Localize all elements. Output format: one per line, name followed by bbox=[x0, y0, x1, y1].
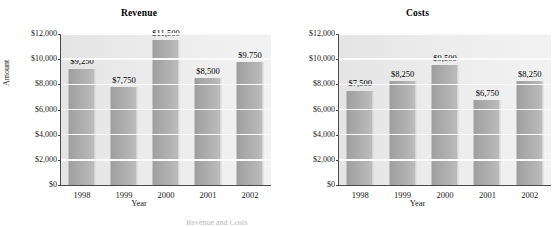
y-tick-mark bbox=[336, 185, 339, 186]
bar bbox=[347, 91, 374, 185]
gridline bbox=[339, 159, 551, 160]
bar-value-label: $8,500 bbox=[196, 67, 219, 76]
gridline bbox=[61, 134, 271, 135]
gridline bbox=[61, 33, 271, 34]
y-tick-mark bbox=[58, 34, 61, 35]
y-tick-mark bbox=[336, 59, 339, 60]
bar bbox=[111, 87, 138, 185]
y-tick-mark bbox=[58, 185, 61, 186]
y-tick-label: $12,000 bbox=[31, 30, 57, 38]
gridline bbox=[339, 84, 551, 85]
y-tick-mark bbox=[58, 84, 61, 85]
bar bbox=[153, 40, 180, 185]
y-tick-mark bbox=[336, 84, 339, 85]
gridline bbox=[339, 134, 551, 135]
bar bbox=[69, 69, 96, 185]
y-tick-label: $6,000 bbox=[313, 106, 335, 114]
y-tick-label: $12,000 bbox=[309, 30, 335, 38]
plot-area: $9,2501998$7,7501999$11,5002000$8,500200… bbox=[60, 34, 271, 186]
y-tick-mark bbox=[336, 160, 339, 161]
y-tick-label: $2,000 bbox=[313, 156, 335, 164]
bar bbox=[237, 62, 264, 185]
y-tick-label: $8,000 bbox=[313, 80, 335, 88]
y-tick-mark bbox=[336, 34, 339, 35]
chart-title: Revenue bbox=[0, 8, 278, 18]
y-tick-mark bbox=[58, 160, 61, 161]
x-axis-label: Year bbox=[278, 198, 557, 208]
gridline bbox=[61, 159, 271, 160]
bar bbox=[195, 78, 222, 185]
bar-value-label: $8,250 bbox=[518, 70, 541, 79]
gridline bbox=[339, 58, 551, 59]
x-axis-label: Year bbox=[0, 198, 278, 208]
gridline bbox=[339, 109, 551, 110]
y-tick-label: $4,000 bbox=[35, 131, 57, 139]
y-tick-label: $0 bbox=[49, 181, 57, 189]
figure-sheet: Revenue Amount $9,2501998$7,7501999$11,5… bbox=[0, 0, 557, 227]
y-tick-label: $0 bbox=[327, 181, 335, 189]
gridline bbox=[61, 109, 271, 110]
y-tick-label: $6,000 bbox=[35, 106, 57, 114]
cropped-caption: Revenue and Costs bbox=[186, 220, 386, 227]
y-tick-mark bbox=[58, 135, 61, 136]
y-tick-mark bbox=[336, 135, 339, 136]
gridline bbox=[61, 58, 271, 59]
chart-revenue: Revenue Amount $9,2501998$7,7501999$11,5… bbox=[0, 0, 278, 215]
bar-value-label: $8,250 bbox=[391, 70, 414, 79]
gridline bbox=[61, 84, 271, 85]
y-tick-label: $2,000 bbox=[35, 156, 57, 164]
y-tick-label: $10,000 bbox=[309, 55, 335, 63]
chart-costs: Costs Amount $7,5001998$8,2501999$9,5002… bbox=[278, 0, 557, 215]
y-tick-label: $10,000 bbox=[31, 55, 57, 63]
y-axis-label: Amount bbox=[2, 60, 11, 86]
plot-area: $7,5001998$8,2501999$9,5002000$6,7502001… bbox=[338, 34, 551, 186]
chart-title: Costs bbox=[278, 8, 557, 18]
y-tick-label: $4,000 bbox=[313, 131, 335, 139]
y-tick-mark bbox=[336, 110, 339, 111]
y-tick-mark bbox=[58, 59, 61, 60]
bar-value-label: $6,750 bbox=[476, 89, 499, 98]
gridline bbox=[339, 33, 551, 34]
y-tick-mark bbox=[58, 110, 61, 111]
y-tick-label: $8,000 bbox=[35, 80, 57, 88]
bar bbox=[474, 100, 501, 185]
cropped-caption-text: Revenue and Costs bbox=[186, 220, 386, 227]
